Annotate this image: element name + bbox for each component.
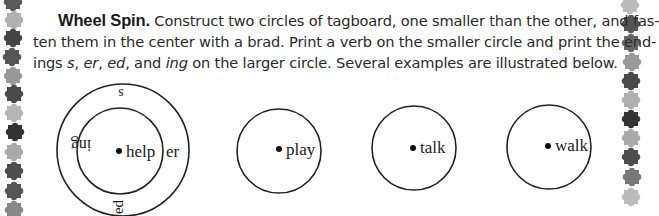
ending-top: s	[118, 86, 123, 101]
wheel-talk: talk	[372, 106, 456, 190]
brad-dot-icon	[116, 148, 122, 154]
verb-label: walk	[555, 136, 589, 155]
wheel-walk: walk	[507, 105, 591, 189]
verb-label: help	[126, 142, 155, 161]
ending-right: er	[166, 142, 180, 161]
ending-bottom: ed	[110, 199, 126, 214]
wheel-play: play	[237, 109, 321, 193]
wheel-help: help er s ing ed	[57, 84, 189, 216]
brad-dot-icon	[545, 143, 551, 149]
brad-dot-icon	[410, 145, 416, 151]
brad-dot-icon	[276, 146, 282, 152]
verb-label: play	[286, 140, 316, 159]
verb-label: talk	[420, 138, 446, 157]
ending-left: ing	[71, 136, 91, 154]
